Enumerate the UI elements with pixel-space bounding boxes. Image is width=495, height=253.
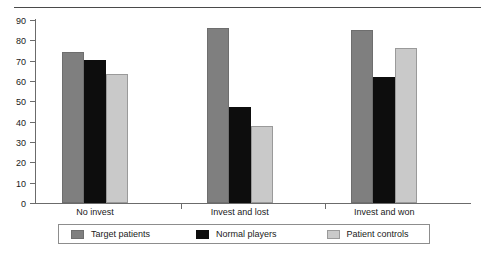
y-axis-tick: 30 [30,142,36,143]
y-axis-tick-label: 20 [16,159,26,168]
bar-0-1 [207,28,229,203]
bar-1-0 [84,60,106,203]
bar-chart-figure: 0102030405060708090 Target patientsNorma… [0,0,495,253]
header-rule [14,7,481,8]
y-axis-tick-label: 10 [16,179,26,188]
y-axis-tick: 0 [30,203,36,204]
bar-0-2 [351,30,373,203]
y-axis-tick: 50 [30,101,36,102]
y-axis-tick: 90 [30,20,36,21]
legend-swatch-0 [71,230,84,239]
bar-1-2 [373,77,395,203]
y-axis-tick-label: 30 [16,139,26,148]
y-axis-tick-label: 70 [16,57,26,66]
y-axis-tick: 60 [30,81,36,82]
y-axis-tick: 70 [30,61,36,62]
y-axis-tick-label: 80 [16,37,26,46]
bar-2-0 [106,74,128,203]
chart-legend: Target patientsNormal playersPatient con… [58,224,430,244]
y-axis-tick: 40 [30,122,36,123]
legend-swatch-1 [196,230,209,239]
x-axis-group-label: Invest and lost [211,207,269,217]
x-axis-tick [181,203,182,209]
bar-1-1 [229,107,251,203]
x-axis-line [35,203,471,204]
legend-label-2: Patient controls [347,230,409,239]
y-axis-tick-label: 90 [16,17,26,26]
y-axis-tick: 20 [30,162,36,163]
bar-2-1 [251,126,273,203]
legend-label-1: Normal players [216,230,277,239]
bar-0-0 [62,52,84,203]
legend-swatch-2 [327,230,340,239]
y-axis-tick-label: 50 [16,98,26,107]
y-axis-tick: 80 [30,40,36,41]
y-axis-tick: 10 [30,183,36,184]
y-axis-tick-label: 0 [21,200,26,209]
x-axis-group-label: No invest [76,207,114,217]
legend-item-0: Target patients [71,230,150,239]
legend-label-0: Target patients [91,230,150,239]
x-axis-tick [325,203,326,209]
y-axis-tick-label: 40 [16,118,26,127]
bar-2-2 [395,48,417,203]
legend-item-2: Patient controls [327,230,409,239]
legend-item-1: Normal players [196,230,277,239]
plot-area: 0102030405060708090 [36,20,470,203]
x-axis-group-label: Invest and won [354,207,415,217]
y-axis-tick-label: 60 [16,78,26,87]
